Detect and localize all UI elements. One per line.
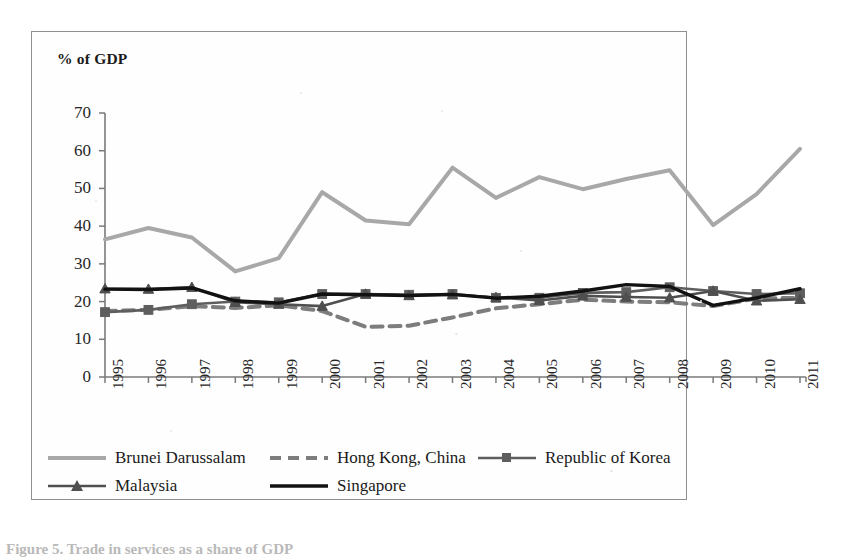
x-tick-2007: 2007 [632,359,647,389]
legend-swatch-malaysia [46,477,108,495]
scan-speckle [441,110,443,112]
figure-frame [31,31,687,500]
legend-label-malaysia: Malaysia [115,477,177,495]
axis-title: % of GDP [57,50,127,68]
scan-speckle [170,430,172,432]
legend-label-hongkong: Hong Kong, China [337,449,466,467]
legend-label-brunei: Brunei Darussalam [115,449,246,467]
y-tick-60: 60 [57,142,91,159]
x-tick-2001: 2001 [372,359,387,389]
scan-speckle [455,333,458,335]
y-tick-50: 50 [57,179,91,196]
x-tick-2009: 2009 [719,359,734,389]
y-tick-20: 20 [57,293,91,310]
x-tick-1996: 1996 [154,359,169,389]
legend-swatch-brunei [46,449,108,467]
x-tick-2000: 2000 [328,359,343,389]
x-tick-2011: 2011 [806,360,821,389]
x-tick-1999: 1999 [285,359,300,389]
legend-swatch-hongkong [268,449,330,467]
chart-legend: Brunei DarussalamHong Kong, ChinaRepubli… [46,444,676,500]
x-tick-2003: 2003 [459,359,474,389]
x-tick-2006: 2006 [589,359,604,389]
legend-item-hongkong[interactable]: Hong Kong, China [268,449,466,467]
legend-item-brunei[interactable]: Brunei Darussalam [46,449,246,467]
y-tick-0: 0 [57,368,91,385]
legend-label-singapore: Singapore [337,477,406,495]
x-tick-2008: 2008 [676,359,691,389]
caption-fragment: Figure 5. Trade in services as a share o… [6,541,293,560]
y-tick-10: 10 [57,330,91,347]
x-tick-2010: 2010 [763,359,778,389]
legend-item-malaysia[interactable]: Malaysia [46,477,177,495]
y-tick-70: 70 [57,104,91,121]
scan-speckle [520,250,522,252]
scan-speckle [95,200,97,202]
x-tick-2004: 2004 [502,359,517,389]
x-tick-1998: 1998 [241,359,256,389]
x-tick-1995: 1995 [111,359,126,389]
scan-speckle [700,300,702,302]
legend-item-korea[interactable]: Republic of Korea [476,449,671,467]
x-tick-1997: 1997 [198,359,213,389]
legend-swatch-korea [476,449,538,467]
x-tick-2005: 2005 [545,359,560,389]
x-tick-2002: 2002 [415,359,430,389]
scan-speckle [300,92,302,94]
scan-speckle [610,470,613,472]
legend-swatch-singapore [268,477,330,495]
y-tick-40: 40 [57,217,91,234]
legend-item-singapore[interactable]: Singapore [268,477,406,495]
y-tick-30: 30 [57,255,91,272]
legend-row: Brunei DarussalamHong Kong, ChinaRepubli… [46,444,676,472]
legend-label-korea: Republic of Korea [545,449,671,467]
legend-row: MalaysiaSingapore [46,472,676,500]
